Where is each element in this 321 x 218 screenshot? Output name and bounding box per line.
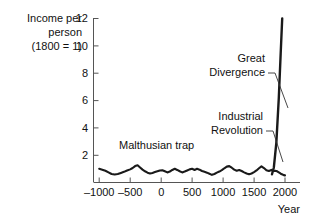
y-axis-label-line-2: person (48, 26, 82, 38)
malthusian-trap-series (99, 165, 285, 175)
y-axis-label-line-3: (1800 = 1) (32, 40, 82, 52)
chart-figure: 12 10 8 6 4 2 –1000 –500 0 500 1000 1500… (0, 0, 321, 218)
x-tick-label-1000: 1000 (211, 186, 235, 198)
x-tick-label-minus1000: –1000 (84, 186, 115, 198)
annotation-great-divergence-line-1: Great (237, 52, 265, 64)
annotation-malthusian-trap: Malthusian trap (119, 139, 194, 151)
y-tick-label-4: 4 (82, 122, 88, 134)
x-tick-label-500: 500 (183, 186, 201, 198)
x-tick-label-0: 0 (158, 186, 164, 198)
annotation-industrial-revolution-line-1: Industrial (218, 110, 263, 122)
income-per-person-chart: 12 10 8 6 4 2 –1000 –500 0 500 1000 1500… (0, 0, 321, 218)
great-divergence-series (272, 19, 282, 175)
annotation-great-divergence-line-2: Divergence (209, 66, 265, 78)
y-tick-label-8: 8 (82, 67, 88, 79)
x-tick-label-2000: 2000 (273, 186, 297, 198)
x-tick-label-1500: 1500 (242, 186, 266, 198)
x-tick-label-minus500: –500 (118, 186, 142, 198)
x-tick-marks (99, 178, 285, 183)
y-tick-label-6: 6 (82, 94, 88, 106)
y-tick-label-2: 2 (82, 149, 88, 161)
y-tick-marks (94, 19, 99, 156)
x-axis-label: Year (278, 203, 301, 215)
y-axis-label-line-1: Income per (27, 12, 82, 24)
annotation-industrial-revolution-line-2: Revolution (211, 124, 263, 136)
